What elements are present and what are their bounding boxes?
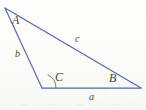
side-label-b: b xyxy=(15,49,20,59)
vertex-label-b: B xyxy=(109,72,116,84)
side-label-a: a xyxy=(89,92,94,102)
side-b-line xyxy=(5,8,42,88)
vertex-label-a: A xyxy=(12,14,19,26)
triangle-figure: A B C a b c ·· ·—· ·· —·· ·—·· ·· —· ···… xyxy=(0,0,146,110)
side-c-line xyxy=(5,8,141,88)
vertex-label-c: C xyxy=(55,71,63,83)
side-label-c: c xyxy=(75,34,79,44)
triangle-drawing xyxy=(0,0,146,110)
